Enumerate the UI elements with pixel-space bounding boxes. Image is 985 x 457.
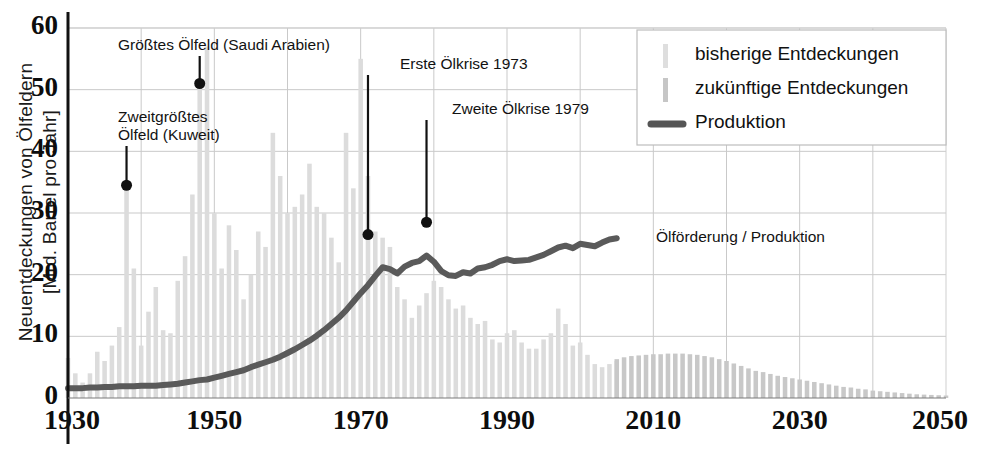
- bar: [739, 366, 744, 398]
- bar: [666, 354, 671, 398]
- bar: [410, 318, 415, 398]
- legend-label-1: zukünftige Entdeckungen: [695, 77, 908, 99]
- legend-label-0: bisherige Entdeckungen: [695, 43, 899, 65]
- bar: [454, 309, 459, 398]
- bar: [175, 281, 180, 398]
- bar: [805, 381, 810, 398]
- bar: [380, 238, 385, 398]
- bar: [205, 47, 210, 399]
- bar: [673, 354, 678, 398]
- bar: [329, 238, 334, 398]
- bar: [307, 164, 312, 398]
- bar: [783, 377, 788, 398]
- bar: [395, 287, 400, 398]
- bar: [651, 354, 656, 398]
- annotation-dot-first-oil-crisis: [362, 229, 373, 240]
- bar: [863, 389, 868, 398]
- bar: [600, 367, 605, 398]
- bar: [658, 354, 663, 398]
- bar: [563, 324, 568, 398]
- bar: [300, 195, 305, 399]
- bar: [139, 346, 144, 398]
- bar: [922, 395, 927, 398]
- bar: [285, 213, 290, 398]
- production-inline-label: Ölförderung / Produktion: [656, 228, 825, 246]
- bar: [768, 374, 773, 398]
- bar: [358, 59, 363, 398]
- bar: [732, 363, 737, 398]
- bar: [878, 391, 883, 398]
- bar: [761, 372, 766, 398]
- bar: [695, 355, 700, 398]
- bar: [168, 333, 173, 398]
- bar: [512, 330, 517, 398]
- bar: [505, 333, 510, 398]
- bar: [154, 287, 159, 398]
- bar: [475, 324, 480, 398]
- bar: [827, 384, 832, 398]
- bar: [614, 359, 619, 398]
- annotation-dot-second-oil-crisis: [421, 217, 432, 228]
- bar: [351, 188, 356, 398]
- legend-marker-bar-dark: [663, 78, 668, 102]
- bar: [483, 321, 488, 398]
- bar: [754, 371, 759, 398]
- bar: [432, 281, 437, 398]
- bar: [241, 299, 246, 398]
- bar: [373, 232, 378, 399]
- bar: [585, 355, 590, 398]
- bar: [578, 343, 583, 399]
- bar: [439, 287, 444, 398]
- bar: [644, 355, 649, 398]
- bar: [293, 207, 298, 398]
- bar: [900, 393, 905, 398]
- bar: [336, 262, 341, 398]
- bar: [819, 383, 824, 398]
- bar: [249, 275, 254, 398]
- annotation-second-oil-crisis: Zweite Ölkrise 1979: [452, 100, 672, 118]
- bar: [914, 394, 919, 398]
- bar: [775, 376, 780, 398]
- bar: [629, 356, 634, 398]
- annotation-second-largest-oilfield: Zweitgrößtes Ölfeld (Kuweit): [118, 108, 298, 144]
- legend-marker-bar-light: [663, 44, 668, 68]
- bar: [724, 361, 729, 398]
- bar: [110, 346, 115, 398]
- bar: [556, 309, 561, 398]
- bar: [885, 392, 890, 398]
- bar: [746, 368, 751, 398]
- bar: [234, 250, 239, 398]
- bar: [497, 343, 502, 399]
- bar: [183, 256, 188, 398]
- bar: [256, 232, 261, 399]
- bar: [790, 378, 795, 398]
- bar: [907, 394, 912, 398]
- bar: [636, 355, 641, 398]
- annotation-dot-second-largest-oilfield: [121, 180, 132, 191]
- bar: [124, 185, 129, 398]
- bar: [322, 213, 327, 398]
- bar: [519, 343, 524, 399]
- bar: [95, 352, 100, 398]
- bar: [849, 388, 854, 398]
- bar: [571, 346, 576, 398]
- bar: [812, 382, 817, 398]
- bar: [680, 354, 685, 398]
- bar: [132, 269, 137, 399]
- oil-discovery-chart: Neuentdeckungen von Ölfeldern [Mrd. Barr…: [0, 0, 985, 457]
- bar: [315, 207, 320, 398]
- bar: [424, 293, 429, 398]
- bar: [344, 133, 349, 398]
- bar: [102, 361, 107, 398]
- annotation-largest-oilfield: Größtes Ölfeld (Saudi Arabien): [118, 36, 418, 54]
- bar: [688, 354, 693, 398]
- bar: [541, 339, 546, 398]
- bar: [593, 364, 598, 398]
- bar: [622, 357, 627, 398]
- bar: [190, 195, 195, 399]
- bar: [534, 349, 539, 398]
- legend-label-2: Produktion: [695, 111, 786, 133]
- bar: [490, 339, 495, 398]
- bar: [702, 356, 707, 398]
- annotation-dot-largest-oilfield: [194, 78, 205, 89]
